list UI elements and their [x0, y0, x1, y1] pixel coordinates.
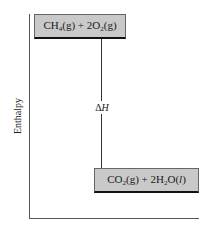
y-axis-label: Enthalpy: [12, 98, 23, 134]
delta-h-label: ΔH: [92, 101, 112, 114]
x-axis: [29, 218, 199, 219]
reactants-box: CH4(g) + 2O2(g): [34, 14, 126, 39]
reactants-formula: CH4(g) + 2O2(g): [43, 19, 116, 33]
products-box: CO2(g) + 2H2O(l): [94, 168, 199, 193]
products-formula: CO2(g) + 2H2O(l): [107, 173, 186, 187]
y-axis: [29, 14, 30, 219]
